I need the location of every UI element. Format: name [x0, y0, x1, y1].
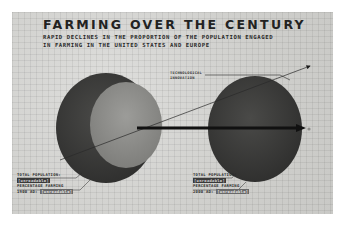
population-value-2000: [unreadable]: [193, 178, 226, 183]
callout-1900: TOTAL POPULATION: [unreadable] PERCENTAG…: [17, 172, 73, 194]
farming-value-2000: [unreadable]: [216, 189, 249, 194]
page-title: FARMING OVER THE CENTURY: [43, 17, 306, 32]
subtitle: RAPID DECLINES IN THE PROPORTION OF THE …: [43, 33, 283, 49]
population-value-1900: [unreadable]: [17, 178, 50, 183]
circle-1900-farming-share: [90, 82, 162, 168]
callout-2000: TOTAL POPULATION: [unreadable] PERCENTAG…: [193, 172, 249, 194]
year-2000: 2000 AD:: [193, 189, 214, 194]
label-line-2: INNOVATION: [170, 76, 202, 81]
circle-2000-farming-share: [307, 127, 310, 130]
farming-value-1900: [unreadable]: [40, 189, 73, 194]
year-1900: 1900 AD:: [17, 189, 38, 194]
technological-innovation-label: TECHNOLOGICAL INNOVATION: [170, 71, 202, 81]
